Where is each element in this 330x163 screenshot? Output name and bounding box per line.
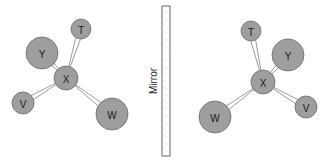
atom-label: W: [107, 110, 117, 121]
atom-label: Y: [285, 51, 292, 62]
atom-x: X: [251, 70, 275, 94]
mirror: Mirror: [148, 6, 171, 156]
atom-label: V: [20, 99, 27, 110]
atom-label: T: [78, 25, 84, 36]
atom-v: V: [12, 92, 34, 114]
atom-label: X: [260, 78, 267, 89]
mirror-label: Mirror: [148, 67, 159, 94]
left-molecule: TYVWX: [12, 19, 128, 130]
atom-x: X: [54, 66, 78, 90]
mirror-hatching: [162, 6, 170, 156]
atom-v: V: [295, 96, 317, 118]
atom-label: Y: [39, 49, 46, 60]
atom-label: X: [63, 74, 70, 85]
chirality-diagram: TYVWX Mirror TYVWX: [0, 0, 330, 163]
atom-t: T: [71, 19, 91, 39]
atom-y: Y: [272, 39, 304, 71]
atom-w: W: [96, 98, 128, 130]
atom-w: W: [199, 101, 231, 133]
atom-label: V: [303, 103, 310, 114]
atom-t: T: [241, 21, 261, 41]
atom-y: Y: [26, 37, 58, 69]
right-molecule: TYVWX: [199, 21, 317, 133]
atom-label: T: [248, 27, 254, 38]
atom-label: W: [210, 113, 220, 124]
